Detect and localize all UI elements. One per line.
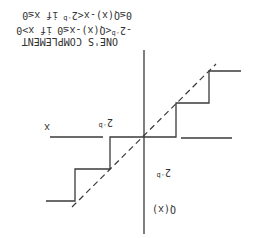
ones-complement-quantization-figure: ONE'S COMPLEMENT -2-b<Q(x)-x≤0if x>0 0≤Q… [0, 0, 254, 238]
step-label-y-exp: -b [157, 171, 165, 179]
condition-2-exp: -b [63, 14, 71, 22]
condition-1-lower: -2 [120, 25, 132, 36]
condition-1: -2-b<Q(x)-x≤0if x>0 [16, 25, 132, 37]
step-label-x-exp: -b [99, 121, 107, 129]
condition-2-expr: 0≤Q(x)-x<2 [72, 10, 132, 21]
condition-1-lower-exp: -b [112, 29, 120, 37]
condition-1-expr: <Q(x)-x≤0 [57, 25, 111, 36]
step-label-x: 2-b [99, 117, 113, 129]
quantization-diagram: ONE'S COMPLEMENT -2-b<Q(x)-x≤0if x>0 0≤Q… [0, 0, 254, 238]
step-label-y: 2-b [157, 167, 171, 179]
x-axis-label: x [44, 122, 50, 133]
q-axis-label: Q(x) [152, 204, 176, 215]
condition-1-cond: if x>0 [16, 25, 52, 36]
condition-2: 0≤Q(x)-x<2-bif x≤0 [22, 10, 132, 22]
condition-2-cond: if x≤0 [22, 10, 58, 21]
figure-title: ONE'S COMPLEMENT [22, 36, 118, 47]
